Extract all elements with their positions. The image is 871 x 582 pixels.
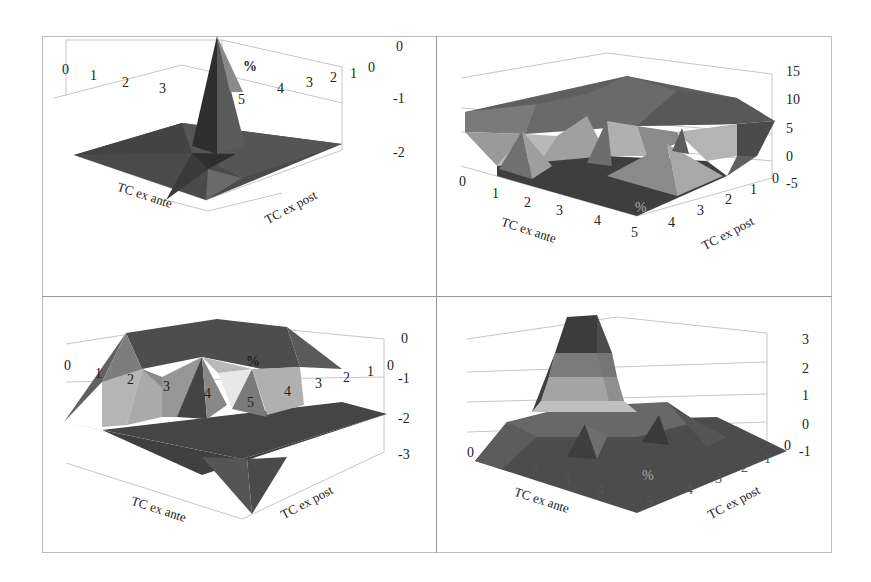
z-tick-label: 1	[802, 389, 809, 403]
y-tick-label: 0	[784, 439, 791, 453]
surface-plot	[437, 297, 831, 556]
y-tick-label: 1	[764, 452, 771, 466]
y-tick-label: 3	[315, 377, 322, 391]
y-tick-label: 1	[367, 365, 374, 379]
x-tick-label: 2	[531, 465, 538, 479]
x-tick-label: 0	[62, 63, 69, 77]
surface-plot	[42, 36, 436, 295]
y-tick-label: 0	[368, 61, 375, 75]
chart-panel-bottom-left: 0 1 2 3 4 5 4 3 2 1 0 % 0 -1 -2 -3 TC ex…	[42, 297, 436, 556]
y-tick-label: 5	[238, 93, 245, 107]
y-tick-label: 4	[686, 483, 693, 497]
x-tick-label: 3	[556, 204, 563, 218]
z-tick-label: 3	[802, 333, 809, 347]
z-tick-label: 0	[786, 150, 793, 164]
x-tick-label: 3	[159, 82, 166, 96]
z-tick-label: -5	[786, 177, 798, 191]
y-tick-label: 2	[741, 461, 748, 475]
z-tick-label: 0	[396, 40, 403, 54]
z-tick-label: -1	[398, 372, 410, 386]
chart-panel-top-right: 0 1 2 3 4 5 4 3 2 1 0 % 15 10 5 0 -5 TC …	[437, 36, 831, 295]
z-axis-label: %	[243, 60, 257, 74]
x-tick-label: 1	[90, 69, 97, 83]
z-tick-label: -2	[398, 412, 410, 426]
x-tick-label: 4	[594, 214, 601, 228]
y-tick-label: 4	[277, 82, 284, 96]
x-tick-label: 1	[501, 455, 508, 469]
x-tick-label: 3	[563, 473, 570, 487]
y-tick-label: 4	[668, 216, 675, 230]
y-tick-label: 2	[343, 371, 350, 385]
x-tick-label: 4	[597, 483, 604, 497]
y-tick-label: 1	[750, 183, 757, 197]
z-tick-label: -3	[398, 448, 410, 462]
surface-plot	[437, 36, 831, 295]
x-tick-label: 2	[524, 196, 531, 210]
x-tick-label: 4	[204, 387, 211, 401]
z-tick-label: 15	[786, 65, 800, 79]
y-tick-label: 1	[350, 67, 357, 81]
y-tick-label: 3	[306, 76, 313, 90]
x-tick-label: 0	[459, 175, 466, 189]
y-tick-label: 4	[284, 385, 291, 399]
x-tick-label: 1	[95, 367, 102, 381]
y-tick-label: 2	[330, 71, 337, 85]
chart-panel-bottom-right: 0 1 2 3 4 5 4 3 2 1 0 % 3 2 1 0 -1 TC ex…	[437, 297, 831, 556]
x-tick-label: 5	[646, 495, 653, 509]
surface-plot	[42, 297, 436, 556]
z-tick-label: -1	[799, 445, 811, 459]
z-tick-label: 0	[401, 332, 408, 346]
z-tick-label: 5	[786, 122, 793, 136]
z-tick-label: 0	[802, 418, 809, 432]
chart-panel-top-left: 0 1 2 3 5 4 3 2 1 0 % 0 -1 -2 TC ex ante…	[42, 36, 436, 295]
z-tick-label: -2	[393, 146, 405, 160]
x-tick-label: 1	[492, 187, 499, 201]
y-tick-label: 3	[715, 472, 722, 486]
x-tick-label: 5	[631, 226, 638, 240]
x-tick-label: 5	[247, 396, 254, 410]
x-tick-label: 3	[163, 380, 170, 394]
z-axis-label: %	[635, 201, 647, 215]
z-tick-label: 2	[802, 362, 809, 376]
y-tick-label: 3	[697, 204, 704, 218]
x-tick-label: 2	[122, 76, 129, 90]
z-tick-label: -1	[393, 92, 405, 106]
z-tick-label: 10	[786, 93, 800, 107]
x-tick-label: 0	[467, 446, 474, 460]
y-tick-label: 0	[387, 359, 394, 373]
x-tick-label: 0	[64, 359, 71, 373]
z-axis-label: %	[246, 355, 260, 369]
y-tick-label: 0	[772, 172, 779, 186]
x-tick-label: 2	[127, 373, 134, 387]
y-tick-label: 2	[725, 193, 732, 207]
z-axis-label: %	[642, 469, 654, 483]
